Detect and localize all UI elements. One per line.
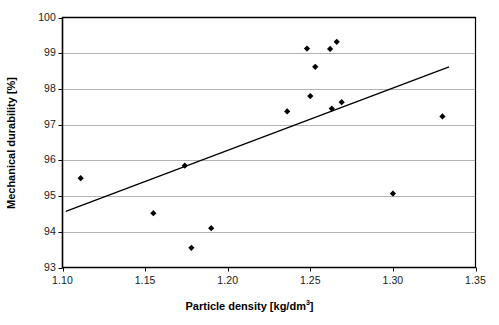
- y-tick-label: 94: [22, 225, 56, 237]
- x-tick-label: 1.15: [123, 274, 167, 286]
- y-tick-label: 97: [22, 118, 56, 130]
- y-tick-label: 93: [22, 261, 56, 273]
- y-tick-label: 100: [22, 11, 56, 23]
- y-tick-label: 95: [22, 189, 56, 201]
- y-tick-label: 99: [22, 46, 56, 58]
- x-tick-label: 1.35: [454, 274, 498, 286]
- y-axis-title-wrapper: Mechanical durability [%]: [0, 0, 22, 285]
- plot-background: [62, 17, 476, 268]
- y-tick-label: 96: [22, 153, 56, 165]
- x-tick-label: 1.20: [206, 274, 250, 286]
- x-tick-label: 1.25: [288, 274, 332, 286]
- x-tick-label: 1.10: [41, 274, 85, 286]
- x-tick-label: 1.30: [371, 274, 415, 286]
- y-tick-label: 98: [22, 82, 56, 94]
- y-axis-title: Mechanical durability [%]: [5, 76, 17, 208]
- x-axis-title-main: Particle density [kg/dm: [185, 300, 305, 312]
- x-axis-title: Particle density [kg/dm3]: [0, 300, 499, 312]
- chart-figure: 93949596979899100 1.101.151.201.251.301.…: [0, 0, 499, 325]
- x-axis-title-tail: ]: [310, 300, 314, 312]
